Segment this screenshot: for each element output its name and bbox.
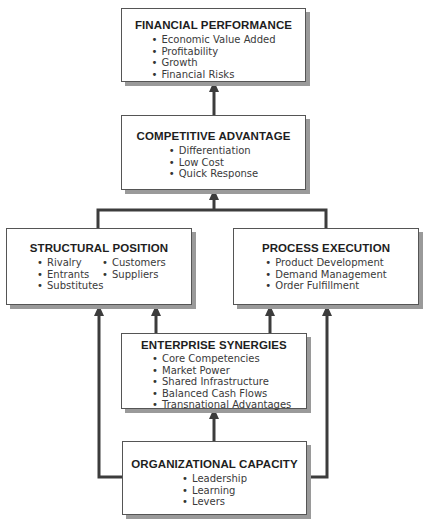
edge-org-to-process	[307, 307, 327, 477]
list-item: Learning	[182, 485, 247, 497]
node-enterprise-synergies: ENTERPRISE SYNERGIES Core Competencies M…	[121, 333, 307, 409]
list-item: Market Power	[152, 365, 306, 377]
arrowhead-process-right	[322, 305, 332, 316]
node-structural-position: STRUCTURAL POSITION Rivalry Entrants Sub…	[6, 228, 192, 305]
list-item: Low Cost	[169, 157, 258, 169]
node-title: ORGANIZATIONAL CAPACITY	[123, 458, 306, 470]
node-title: STRUCTURAL POSITION	[7, 242, 191, 254]
node-item-list: Economic Value Added Profitability Growt…	[151, 34, 275, 80]
list-item: Growth	[151, 57, 275, 69]
edge-bracket-to-competitive	[98, 210, 326, 228]
node-title: PROCESS EXECUTION	[234, 242, 418, 254]
list-item: Profitability	[151, 46, 275, 58]
node-item-list: Product Development Demand Management Or…	[265, 257, 386, 292]
arrowhead-process-left	[265, 305, 275, 316]
arrowhead-financial	[209, 81, 219, 92]
node-financial-performance: FINANCIAL PERFORMANCE Economic Value Add…	[121, 8, 306, 82]
list-item: Balanced Cash Flows	[152, 388, 306, 400]
node-competitive-advantage: COMPETITIVE ADVANTAGE Differentiation Lo…	[121, 115, 306, 190]
node-title: ENTERPRISE SYNERGIES	[122, 339, 306, 351]
arrowhead-competitive	[209, 189, 219, 200]
list-item: Financial Risks	[151, 69, 275, 81]
list-item: Quick Response	[169, 168, 258, 180]
node-item-list-col2: Customers Suppliers	[102, 257, 166, 292]
list-item: Demand Management	[265, 269, 386, 281]
list-item: Order Fulfillment	[265, 280, 386, 292]
list-item: Suppliers	[102, 269, 166, 281]
list-item: Customers	[102, 257, 166, 269]
node-process-execution: PROCESS EXECUTION Product Development De…	[233, 228, 419, 305]
arrowhead-structural-left	[94, 305, 104, 316]
node-organizational-capacity: ORGANIZATIONAL CAPACITY Leadership Learn…	[122, 441, 307, 515]
edge-org-to-structural	[99, 307, 122, 477]
node-title: FINANCIAL PERFORMANCE	[122, 19, 305, 31]
list-item: Core Competencies	[152, 353, 306, 365]
list-item: Product Development	[265, 257, 386, 269]
arrowhead-structural-right	[151, 305, 161, 316]
node-item-list: Core Competencies Market Power Shared In…	[122, 353, 306, 411]
list-item: Rivalry	[37, 257, 102, 269]
list-item: Substitutes	[37, 280, 102, 292]
list-item: Leadership	[182, 473, 247, 485]
node-item-list: Leadership Learning Levers	[182, 473, 247, 508]
node-item-list: Differentiation Low Cost Quick Response	[169, 145, 258, 180]
node-item-list-col1: Rivalry Entrants Substitutes	[37, 257, 102, 292]
list-item: Levers	[182, 496, 247, 508]
node-title: COMPETITIVE ADVANTAGE	[122, 130, 305, 142]
list-item: Differentiation	[169, 145, 258, 157]
list-item: Transnational Advantages	[152, 399, 306, 411]
list-item: Economic Value Added	[151, 34, 275, 46]
list-item: Entrants	[37, 269, 102, 281]
list-item: Shared Infrastructure	[152, 376, 306, 388]
